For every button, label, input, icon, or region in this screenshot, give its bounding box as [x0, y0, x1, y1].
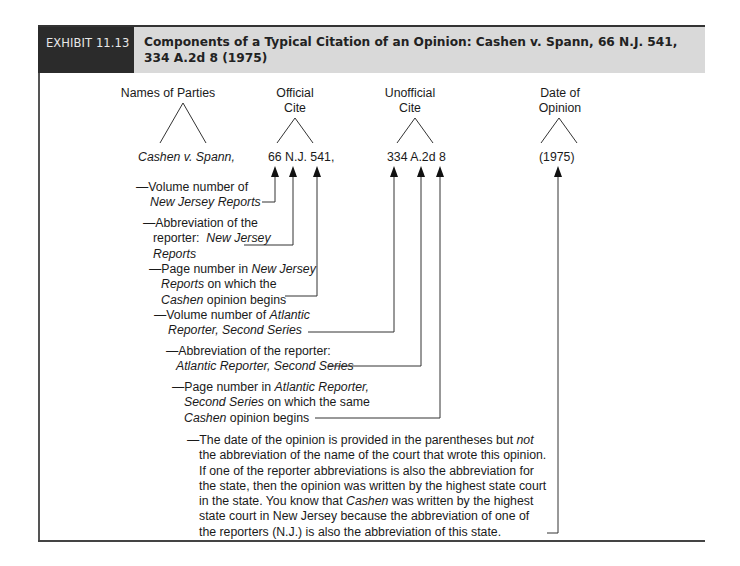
arrow-volume-atlantic: [390, 166, 398, 177]
arrow-page-atlantic: [436, 166, 444, 177]
caret-date: [541, 118, 577, 143]
arrow-abbrev-nj: [289, 166, 297, 177]
caret-unofficial: [397, 118, 433, 143]
connector-lines: [0, 0, 740, 566]
arrow-volume-nj: [271, 166, 279, 177]
caret-official: [277, 118, 313, 143]
arrow-page-nj: [313, 166, 321, 177]
caret-parties: [160, 103, 206, 143]
arrow-abbrev-atlantic: [417, 166, 425, 177]
arrow-date: [554, 166, 562, 177]
